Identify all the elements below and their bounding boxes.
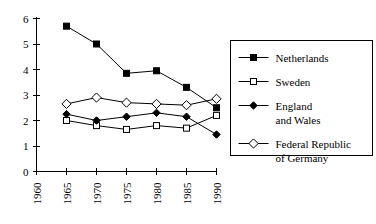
x-tick-label: 1985 [181,182,193,205]
marker-filled-square [184,84,190,90]
marker-open-diamond [212,94,221,103]
marker-filled-square [154,68,160,74]
marker-filled-square [64,23,70,29]
marker-open-square [184,125,190,131]
marker-filled-square [124,70,130,76]
marker-open-diamond [62,99,71,108]
y-axis: 0123456 [23,13,40,178]
line-chart: 0123456 1960196519701975198019851990 Net… [0,0,376,224]
x-tick-label: 1975 [121,182,133,205]
x-tick-label: 1990 [211,182,223,205]
y-tick-label: 5 [23,38,29,50]
marker-filled-diamond [183,113,190,120]
y-tick-label: 1 [23,140,29,152]
marker-filled-square [214,105,220,111]
legend-label: Federal Republic [276,138,352,150]
legend-label: England [276,100,313,112]
chart-legend: NetherlandsSwedenEnglandand WalesFederal… [231,41,373,164]
x-tick-label: 1970 [91,182,103,205]
y-tick-label: 6 [23,13,29,25]
marker-filled-diamond [123,113,130,120]
marker-open-diamond [122,98,131,107]
marker-open-square [214,112,220,118]
marker-filled-diamond [63,110,70,117]
series-layer [62,23,221,138]
legend-label: Sweden [276,76,311,88]
marker-filled-diamond [213,131,220,138]
x-axis: 1960196519701975198019851990 [31,168,223,205]
marker-filled-square [251,55,257,61]
legend-label: of Germany [276,152,329,164]
marker-filled-diamond [153,109,160,116]
series-polyline [67,113,217,135]
x-tick-label: 1960 [31,182,43,205]
series-polyline [67,26,217,108]
series-netherlands [64,23,220,111]
y-tick-label: 0 [23,166,29,178]
legend-label: and Wales [276,114,321,126]
marker-open-square [124,126,130,132]
marker-open-diamond [92,93,101,102]
marker-open-diamond [182,101,191,110]
series-polyline [67,115,217,129]
marker-open-square [154,123,160,129]
marker-open-square [251,79,257,85]
marker-filled-square [94,41,100,47]
x-tick-label: 1980 [151,182,163,205]
chart-figure: 0123456 1960196519701975198019851990 Net… [0,0,376,224]
marker-open-diamond [152,99,161,108]
x-tick-label: 1965 [61,182,73,205]
y-tick-label: 3 [23,89,29,101]
legend-label: Netherlands [276,52,329,64]
y-tick-label: 2 [23,115,29,127]
y-tick-label: 4 [23,64,29,76]
series-federal-republic-of-germany [62,93,221,110]
series-polyline [67,98,217,106]
